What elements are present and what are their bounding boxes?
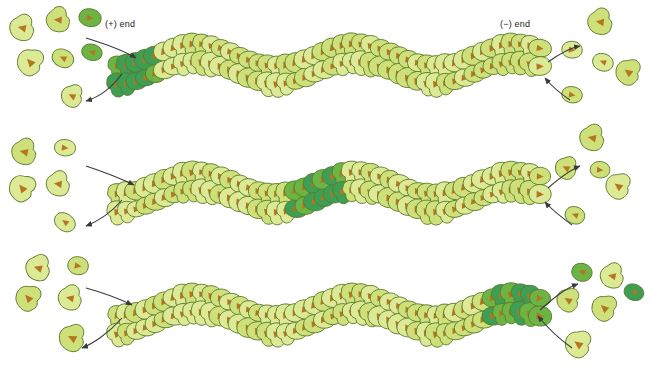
- atp-band-migrated-to-filament-middle: [5, 120, 637, 235]
- diagram-canvas: [0, 0, 650, 370]
- atp-band-reaches-minus-end-and-dissociates: [11, 250, 646, 362]
- treadmilling-diagram: (+) end (−) end: [0, 0, 650, 370]
- newly-added-atp-subunits-at-plus-end: [6, 5, 646, 111]
